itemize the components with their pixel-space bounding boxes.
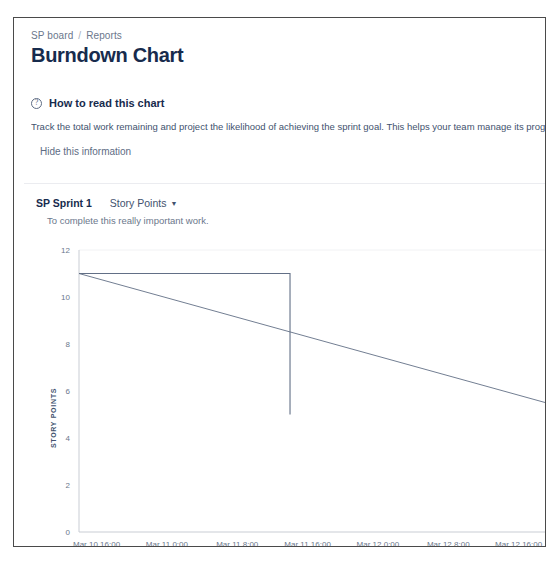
- chart-axes: [79, 250, 545, 532]
- svg-text:Mar 11 8:00: Mar 11 8:00: [216, 540, 259, 546]
- svg-text:Mar 12 0:00: Mar 12 0:00: [357, 540, 400, 546]
- chevron-down-icon: ▼: [170, 200, 177, 207]
- sprint-name: SP Sprint 1: [36, 197, 92, 209]
- page-title: Burndown Chart: [31, 44, 183, 67]
- svg-text:2: 2: [66, 481, 71, 490]
- metric-select-label: Story Points: [110, 197, 167, 209]
- section-divider: [24, 183, 546, 184]
- svg-text:Mar 12 16:00: Mar 12 16:00: [495, 540, 543, 546]
- info-heading: How to read this chart: [49, 97, 165, 109]
- svg-text:8: 8: [66, 340, 71, 349]
- svg-text:0: 0: [66, 528, 71, 537]
- sprint-header-row: SP Sprint 1 Story Points ▼: [36, 197, 177, 209]
- chart-series-guideline: [79, 274, 545, 410]
- breadcrumb: SP board/Reports: [31, 30, 122, 41]
- chart-series-remaining-work: [79, 274, 290, 415]
- y-axis-label: STORY POINTS: [50, 388, 57, 448]
- svg-text:Mar 12 8:00: Mar 12 8:00: [427, 540, 470, 546]
- breadcrumb-item-board[interactable]: SP board: [31, 30, 73, 41]
- metric-select-dropdown[interactable]: Story Points ▼: [110, 197, 178, 209]
- svg-text:4: 4: [66, 434, 71, 443]
- screenshot-root: SP board/Reports Burndown Chart ? How to…: [0, 0, 558, 565]
- burndown-chart-svg: 024681012 Mar 10 16:00Mar 11 0:00Mar 11 …: [14, 228, 545, 546]
- info-panel: ? How to read this chart Track the total…: [31, 96, 546, 159]
- svg-text:Mar 11 16:00: Mar 11 16:00: [284, 540, 331, 546]
- sprint-subtitle: To complete this really important work.: [47, 215, 209, 226]
- chart-y-tick-labels: 024681012: [61, 246, 70, 537]
- svg-text:6: 6: [66, 387, 71, 396]
- report-content-card: SP board/Reports Burndown Chart ? How to…: [13, 17, 546, 547]
- svg-text:12: 12: [61, 246, 70, 255]
- breadcrumb-item-reports[interactable]: Reports: [86, 30, 122, 41]
- info-description: Track the total work remaining and proje…: [31, 120, 546, 133]
- info-heading-row: ? How to read this chart: [31, 96, 546, 110]
- help-circle-icon: ?: [31, 98, 42, 109]
- burndown-chart[interactable]: 024681012 Mar 10 16:00Mar 11 0:00Mar 11 …: [14, 228, 545, 546]
- chart-series: [79, 274, 545, 415]
- svg-text:Mar 10 16:00: Mar 10 16:00: [73, 540, 121, 546]
- svg-text:10: 10: [61, 293, 70, 302]
- hide-this-information-link[interactable]: Hide this information: [40, 146, 131, 157]
- breadcrumb-separator: /: [73, 30, 86, 41]
- svg-text:Mar 11 0:00: Mar 11 0:00: [146, 540, 189, 546]
- chart-x-tick-labels: Mar 10 16:00Mar 11 0:00Mar 11 8:00Mar 11…: [73, 540, 543, 546]
